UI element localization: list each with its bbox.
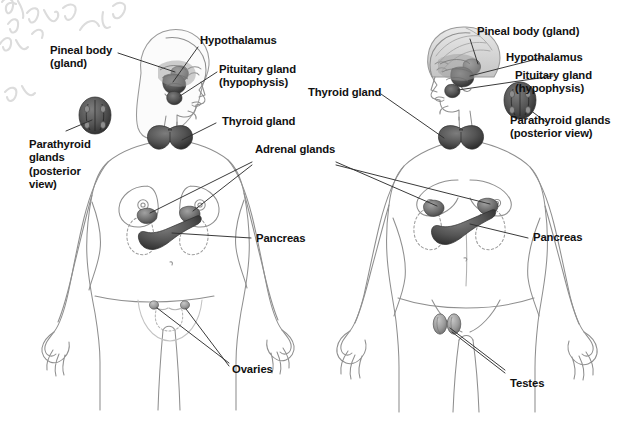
- female-waist-right: [235, 200, 247, 288]
- label-pancreas-right: Pancreas: [533, 231, 582, 244]
- female-ovary-right: [180, 301, 189, 309]
- male-hand-left: [337, 331, 366, 379]
- label-hypothalamus-right: Hypothalamus: [506, 51, 583, 64]
- leader-pancreas-right: [470, 224, 528, 238]
- leader-ovary-left-a: [157, 308, 229, 363]
- female-leg-inner-right: [175, 330, 180, 410]
- leader-ovary-left-b: [186, 309, 229, 366]
- female-uterus: [155, 307, 182, 331]
- male-arm-right-inner: [545, 206, 579, 324]
- male-thyroid-gland: [438, 126, 483, 150]
- male-adrenal-left: [423, 200, 444, 216]
- male-testes: [433, 314, 461, 334]
- female-torso-left: [87, 141, 162, 410]
- male-glands: [423, 54, 498, 334]
- female-waist-left: [89, 202, 101, 290]
- label-thyroid-gland-right: Thyroid gland: [308, 86, 381, 99]
- male-hand-right: [568, 332, 597, 380]
- male-leg-inner-left: [453, 340, 459, 412]
- male-abdomen-midline: [466, 228, 467, 286]
- leader-pancreas-female: [172, 233, 251, 238]
- label-parathyroid-glands-left: Parathyroid glands (posterior view): [29, 138, 91, 192]
- male-navel: [464, 258, 467, 261]
- male-oblique-left: [393, 218, 405, 316]
- label-pancreas-left: Pancreas: [256, 232, 305, 245]
- leader-thyroid-right: [381, 94, 444, 138]
- male-brain-shading: [438, 54, 480, 81]
- label-ovaries: Ovaries: [232, 363, 273, 376]
- male-pancreas: [431, 210, 495, 245]
- label-testes: Testes: [510, 377, 544, 390]
- male-groin-right: [470, 300, 500, 332]
- label-pituitary-gland-left: Pituitary gland (hypophysis): [219, 63, 296, 90]
- male-arm-left: [341, 166, 404, 355]
- female-thyroid-gland: [147, 126, 192, 150]
- male-arm-right: [530, 167, 593, 356]
- female-brain-shading: [158, 61, 196, 87]
- female-pituitary-gland: [167, 91, 182, 104]
- male-pituitary-gland: [445, 84, 460, 97]
- label-pineal-body-left: Pineal body (gland): [50, 44, 112, 71]
- male-brain-glands: [438, 54, 480, 98]
- label-pituitary-gland-right: Pituitary gland (hypophysis): [515, 69, 592, 96]
- label-parathyroid-glands-right: Parathyroid glands (posterior view): [510, 114, 611, 141]
- label-hypothalamus-left: Hypothalamus: [200, 34, 277, 47]
- label-pineal-body-right: Pineal body (gland): [477, 25, 579, 38]
- label-thyroid-gland-left: Thyroid gland: [222, 115, 295, 128]
- male-hips: [398, 298, 534, 308]
- female-crotch: [163, 326, 175, 330]
- female-navel: [170, 262, 172, 265]
- leader-testes-right-b: [452, 332, 505, 373]
- female-parathyroid-glands: [79, 97, 111, 134]
- label-adrenal-glands: Adrenal glands: [255, 143, 335, 156]
- female-leg-inner-left: [158, 330, 163, 410]
- female-nipple-left-inner: [141, 203, 145, 207]
- endocrine-diagram: Pineal body (gland) Hypothalamus Pituita…: [0, 0, 637, 427]
- leader-adrenal-male-b: [336, 165, 490, 204]
- male-arm-left-inner: [355, 205, 389, 323]
